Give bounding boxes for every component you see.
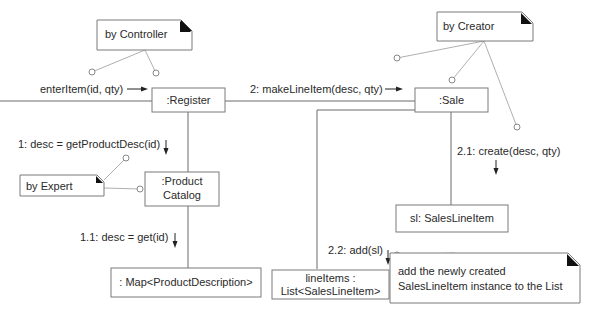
note-add-line1: add the newly created <box>398 265 506 277</box>
note-by-creator-label: by Creator <box>443 20 495 32</box>
anchor-circle-icon <box>514 124 520 130</box>
object-sale-label: :Sale <box>439 94 464 106</box>
message-add: 2.2: add(sl) <box>328 244 383 256</box>
message-create: 2.1: create(desc, qty) <box>457 145 560 157</box>
anchor-circle-icon <box>394 55 400 61</box>
communication-diagram: :Register :Sale :Product Catalog : Map<P… <box>0 0 595 322</box>
note-by-expert-label: by Expert <box>26 180 72 192</box>
note-fold-icon <box>567 254 579 266</box>
object-sale[interactable]: :Sale <box>415 88 488 112</box>
object-product-catalog-line2: Catalog <box>163 189 201 201</box>
anchor-circle-icon <box>137 186 143 192</box>
note-by-controller[interactable]: by Controller <box>97 20 192 50</box>
note-add-line2: SalesLineItem instance to the List <box>398 280 562 292</box>
object-product-catalog-line1: :Product <box>162 175 203 187</box>
anchor-circle-icon <box>153 70 159 76</box>
anchor-circle-icon <box>89 69 95 75</box>
object-map[interactable]: : Map<ProductDescription> <box>111 268 261 297</box>
note-by-controller-label: by Controller <box>105 28 168 40</box>
anchor-circle-icon <box>123 155 129 161</box>
object-product-catalog[interactable]: :Product Catalog <box>145 172 219 206</box>
object-line-items-line1: lineItems : <box>305 272 355 284</box>
object-map-label: : Map<ProductDescription> <box>119 276 252 288</box>
object-line-items-line2: List<SalesLineItem> <box>281 285 381 297</box>
message-enter-item: enterItem(id, qty) <box>40 83 123 95</box>
object-sales-line-item-label: sl: SalesLineItem <box>410 212 494 224</box>
message-make-line-item: 2: makeLineItem(desc, qty) <box>250 83 383 95</box>
anchor-circle-icon <box>449 77 455 83</box>
note-add-sales-line-item[interactable]: add the newly created SalesLineItem inst… <box>390 253 580 303</box>
message-get-product-desc: 1: desc = getProductDesc(id) <box>18 138 160 150</box>
object-register-label: :Register <box>166 94 210 106</box>
object-sales-line-item[interactable]: sl: SalesLineItem <box>396 205 508 232</box>
note-by-creator[interactable]: by Creator <box>437 12 533 41</box>
object-line-items[interactable]: lineItems : List<SalesLineItem> <box>272 270 389 299</box>
object-register[interactable]: :Register <box>152 88 225 112</box>
message-get: 1.1: desc = get(id) <box>80 231 168 243</box>
note-by-expert[interactable]: by Expert <box>20 175 104 196</box>
